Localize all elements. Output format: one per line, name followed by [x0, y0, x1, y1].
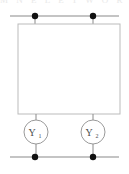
- admittance-y2-subscript: 2: [96, 133, 99, 139]
- admittance-y1-label: Y: [28, 127, 35, 138]
- admittance-y2-label: Y: [85, 127, 92, 138]
- network-block: [18, 24, 120, 114]
- node-top-right: [90, 13, 96, 19]
- node-top-left: [32, 13, 38, 19]
- admittance-y1-subscript: 1: [39, 133, 42, 139]
- schematic-canvas: Y 1 Y 2: [0, 0, 129, 174]
- circuit-diagram: M N E L E T W O R K Y 1 Y 2: [0, 0, 129, 174]
- node-bottom-right: [90, 154, 96, 160]
- node-bottom-left: [32, 154, 38, 160]
